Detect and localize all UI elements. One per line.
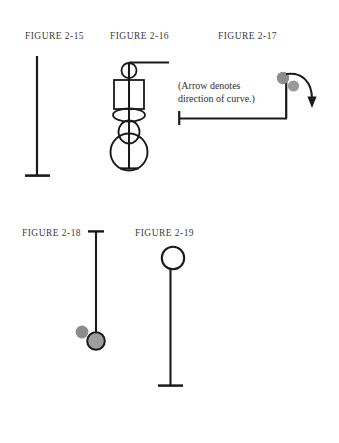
direction-arrow-head-2-17: [307, 97, 316, 109]
outlined-circle-2-18: [87, 332, 105, 350]
figure-2-16-drawing: [111, 62, 170, 171]
gray-sphere-2-18: [76, 326, 89, 339]
figure-2-15-drawing: [25, 56, 50, 176]
figure-2-17-drawing: [179, 72, 317, 125]
top-circle-2-19: [162, 247, 184, 269]
figure-sheet: FIGURE 2-15 FIGURE 2-16 FIGURE 2-17 FIGU…: [0, 0, 339, 443]
figure-2-18-drawing: [76, 231, 105, 350]
figure-drawings: [0, 0, 339, 443]
gray-sphere-lower-2-17: [288, 80, 299, 91]
figure-2-19-drawing: [158, 247, 184, 386]
